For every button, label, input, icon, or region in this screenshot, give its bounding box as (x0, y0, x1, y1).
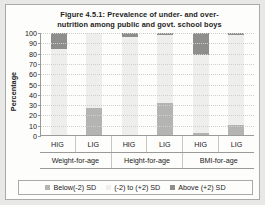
y-axis-tick-label: 10 (29, 121, 37, 130)
bar-segment (51, 33, 67, 49)
x-axis-group-label: Weight-for-age (40, 153, 112, 168)
gridline (41, 126, 254, 127)
y-axis-tick-mark (38, 105, 41, 106)
figure-container: Figure 4.5.1: Prevalence of under- and o… (0, 0, 265, 205)
y-axis-tick-mark (38, 64, 41, 65)
y-axis-title-text: Percentage (9, 71, 18, 110)
bar-segment (228, 35, 244, 125)
gridline (41, 43, 254, 44)
y-axis-tick-labels: 0102030405060708090100 (18, 33, 38, 136)
x-axis-category-label: HIG (183, 136, 219, 152)
x-axis-group-label: BMI-for-age (183, 153, 254, 168)
legend-item[interactable]: Above (+2) SD (170, 183, 225, 192)
y-axis-tick-label: 30 (29, 101, 37, 110)
chart-title-line-1: Figure 4.5.1: Prevalence of under- and o… (26, 10, 253, 20)
legend-item[interactable]: Below(-2) SD (45, 183, 96, 192)
gridline (41, 115, 254, 116)
x-axis-category-label: HIG (40, 136, 76, 152)
chart-panel: Figure 4.5.1: Prevalence of under- and o… (5, 4, 260, 200)
bar-segment (86, 33, 102, 108)
y-axis-tick-mark (38, 33, 41, 34)
y-axis-tick-mark (38, 126, 41, 127)
y-axis-tick-mark (38, 85, 41, 86)
chart-title-line-2: nutrition among public and govt. school … (26, 20, 253, 30)
bar-segment (122, 37, 138, 135)
y-axis-tick-label: 0 (33, 132, 37, 141)
plot-area (40, 33, 254, 136)
x-axis-category-label: LIG (219, 136, 254, 152)
gridline (41, 54, 254, 55)
y-axis-tick-label: 20 (29, 111, 37, 120)
x-axis-category-label: LIG (147, 136, 183, 152)
chart-title: Figure 4.5.1: Prevalence of under- and o… (26, 10, 253, 29)
x-axis-category-label: LIG (76, 136, 112, 152)
gridline (41, 74, 254, 75)
gridline (41, 33, 254, 34)
chart-legend: Below(-2) SD(-2) to (+2) SDAbove (+2) SD (18, 180, 253, 195)
y-axis-tick-label: 90 (29, 39, 37, 48)
legend-item[interactable]: (-2) to (+2) SD (106, 183, 160, 192)
y-axis-tick-mark (38, 74, 41, 75)
y-axis-tick-mark (38, 54, 41, 55)
gridline (41, 64, 254, 65)
y-axis-tick-label: 50 (29, 80, 37, 89)
legend-swatch-icon (106, 185, 111, 190)
y-axis-tick-label: 40 (29, 90, 37, 99)
gridline (41, 85, 254, 86)
y-axis-tick-label: 60 (29, 70, 37, 79)
gridline (41, 95, 254, 96)
x-axis-group-row: Weight-for-ageHeight-for-ageBMI-for-age (40, 153, 254, 169)
bar-segment (157, 103, 173, 135)
bar-segment (193, 133, 209, 135)
x-axis-category-label: HIG (112, 136, 148, 152)
bar-segment (86, 108, 102, 135)
plot-wrapper: Percentage 0102030405060708090100 HIGLIG… (6, 33, 257, 199)
y-axis-tick-mark (38, 95, 41, 96)
y-axis-tick-label: 80 (29, 49, 37, 58)
y-axis-tick-label: 100 (25, 29, 37, 38)
gridline (41, 105, 254, 106)
legend-swatch-icon (45, 185, 50, 190)
legend-label: (-2) to (+2) SD (114, 183, 160, 192)
y-axis-tick-mark (38, 115, 41, 116)
bar-segment (157, 35, 173, 103)
x-axis-group-label: Height-for-age (112, 153, 184, 168)
y-axis-tick-mark (38, 43, 41, 44)
legend-swatch-icon (170, 185, 175, 190)
legend-label: Above (+2) SD (178, 183, 225, 192)
x-axis-category-row: HIGLIGHIGLIGHIGLIG (40, 136, 254, 153)
legend-label: Below(-2) SD (53, 183, 96, 192)
bar-segment (51, 49, 67, 135)
y-axis-tick-label: 70 (29, 59, 37, 68)
